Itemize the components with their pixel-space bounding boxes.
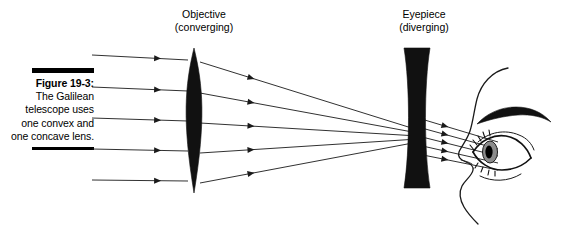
incoming-ray-arrowhead-4 xyxy=(154,147,161,153)
exit-ray-arrowhead-5 xyxy=(441,156,449,163)
converging-ray-2 xyxy=(200,93,418,133)
converging-ray-1 xyxy=(200,62,418,130)
exit-ray-arrowhead-2 xyxy=(441,131,449,139)
converging-rays-group xyxy=(200,62,418,183)
incoming-ray-1 xyxy=(92,55,188,60)
converging-ray-arrowhead-2 xyxy=(247,99,255,106)
lower-lid-fold xyxy=(480,174,521,180)
incoming-ray-arrowhead-2 xyxy=(154,87,161,93)
converging-ray-4 xyxy=(200,139,418,153)
eye-outline-lower xyxy=(473,152,531,170)
figure-container: Figure 19-3: The Galilean telescope uses… xyxy=(0,0,561,231)
converging-ray-arrowhead-3 xyxy=(247,123,254,129)
converging-ray-arrowhead-1 xyxy=(247,74,255,82)
incoming-ray-2 xyxy=(92,87,188,91)
converging-ray-5 xyxy=(200,142,418,183)
incoming-ray-5 xyxy=(92,180,188,181)
incoming-ray-arrowhead-5 xyxy=(154,178,161,184)
converging-ray-arrowhead-5 xyxy=(247,170,255,177)
incoming-rays-group xyxy=(92,55,188,184)
ray-diagram xyxy=(0,0,561,231)
eyebrow xyxy=(477,107,551,124)
eyepiece-lens xyxy=(404,48,430,188)
exit-ray-arrowhead-3 xyxy=(441,139,449,147)
converging-ray-arrowhead-4 xyxy=(247,147,254,153)
pupil xyxy=(485,146,492,159)
incoming-ray-4 xyxy=(92,149,188,151)
exit-ray-arrowhead-4 xyxy=(441,147,449,154)
exit-ray-arrowhead-1 xyxy=(441,122,449,130)
incoming-ray-3 xyxy=(92,118,188,121)
objective-lens xyxy=(186,48,202,193)
converging-ray-3 xyxy=(200,123,418,136)
incoming-ray-arrowhead-3 xyxy=(154,117,161,123)
incoming-ray-arrowhead-1 xyxy=(154,55,161,61)
